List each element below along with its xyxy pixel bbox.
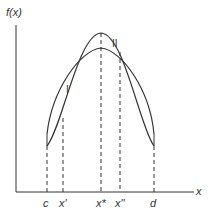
tick-label-d: d: [150, 198, 156, 209]
curve-label-II: II: [112, 39, 118, 49]
x-axis-label: x: [196, 186, 202, 197]
tick-label-x-star: x*: [96, 198, 106, 209]
diagram-canvas: [0, 0, 209, 212]
tick-label-c: c: [43, 198, 49, 209]
tick-label-x-double-prime: x'': [115, 198, 125, 209]
tick-label-x-prime: x': [59, 198, 67, 209]
y-axis-label: f(x): [6, 7, 22, 18]
curve-label-I: I: [66, 85, 69, 95]
